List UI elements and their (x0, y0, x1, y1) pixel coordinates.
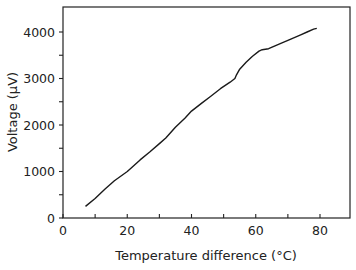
y-axis-label: Voltage (µV) (5, 72, 20, 152)
x-tick-label: 0 (59, 223, 67, 238)
y-tick-label: 4000 (23, 25, 55, 40)
x-tick-label: 60 (248, 223, 264, 238)
plot-frame (63, 7, 350, 218)
x-tick-label: 40 (184, 223, 200, 238)
x-axis-label: Temperature difference (°C) (114, 248, 297, 263)
y-tick-label: 3000 (23, 71, 55, 86)
line-chart: 020406080 01000200030004000 Temperature … (0, 0, 356, 270)
y-tick-label: 2000 (23, 118, 55, 133)
y-axis: 01000200030004000 (23, 25, 63, 226)
y-tick-label: 1000 (23, 164, 55, 179)
data-line (86, 28, 317, 206)
x-tick-label: 20 (119, 223, 135, 238)
y-tick-label: 0 (47, 211, 55, 226)
x-tick-label: 80 (312, 223, 328, 238)
